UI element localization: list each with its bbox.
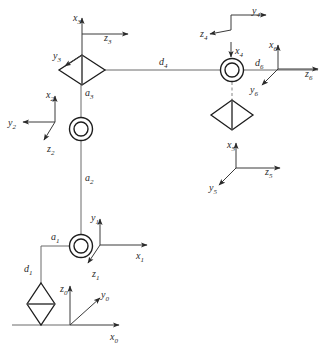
link-label-a3: a3 [85,87,94,101]
z4-axis [210,30,231,34]
frame-0 [70,286,119,325]
y1-axis-label: y1 [90,212,99,226]
z2-axis-label: z2 [46,143,55,157]
x0-axis-label: x0 [109,331,118,345]
kinematic-diagram: z0 y0 x0 y1 x1 z1 x2 y2 z2 x3 z3 y3 y4 z… [0,0,326,350]
prismatic-joint-base [27,283,55,325]
y0-axis [70,298,100,325]
y0-axis-label: y0 [100,289,109,303]
z1-axis-label: z1 [91,268,99,282]
y6-axis [262,69,278,85]
z2-axis [44,122,55,140]
link-label-a1: a1 [51,231,60,245]
prismatic-joint-5 [211,100,253,130]
link-label-d1: d1 [24,263,33,277]
x5-axis-label: x5 [226,139,235,153]
link-group [12,70,318,325]
y4-axis-label: y4 [251,5,260,19]
y2-axis-label: y2 [7,117,16,131]
y6-axis-label: y6 [249,84,258,98]
x2-axis-label: x2 [45,89,54,103]
y5-axis [219,168,236,185]
kinematic-diagram-canvas: z0 y0 x0 y1 x1 z1 x2 y2 z2 x3 z3 y3 y4 z… [0,0,326,350]
z4-axis-label: z4 [199,28,208,42]
revolute-joint-1 [70,235,93,258]
link-label-group: d1 a1 a2 a3 d4 d6 [24,56,264,277]
x3-axis-label: x3 [72,12,81,26]
x4-axis-label: x4 [234,45,243,59]
revolute-joint-2 [70,118,93,141]
revolute-joint-4 [221,59,244,82]
y5-axis-label: y5 [208,182,217,196]
x1-axis-label: x1 [135,250,144,264]
frame-3 [65,18,128,66]
y3-axis-label: y3 [52,50,61,64]
prismatic-joint-3 [59,55,105,85]
x6-axis-label: x6 [268,39,277,53]
link-label-d6: d6 [255,57,264,71]
link-label-a2: a2 [85,172,94,186]
z0-axis-label: z0 [59,283,68,297]
frame-2 [23,96,55,140]
link-label-d4: d4 [159,56,168,70]
